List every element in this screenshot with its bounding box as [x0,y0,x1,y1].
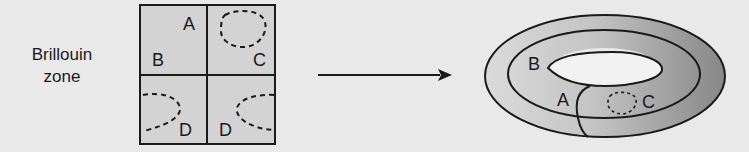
mapping-arrow [318,69,452,81]
grid-label-a: A [183,14,195,34]
brillouin-zone-grid: A B C D D [140,5,275,144]
grid-label-d-right: D [219,120,232,140]
grid-label-c: C [253,50,266,70]
torus-label-c: C [642,92,655,112]
torus-label-a: A [557,90,569,110]
torus: B A C [480,10,730,145]
grid-label-b: B [152,50,164,70]
torus-label-b: B [528,54,540,74]
diagram-canvas: A B C D D B A C [0,0,749,152]
grid-label-d-left: D [179,120,192,140]
